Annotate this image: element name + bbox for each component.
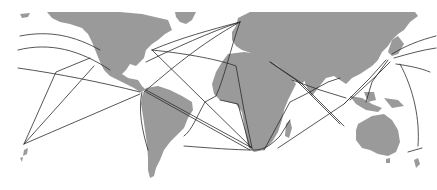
world-map bbox=[0, 0, 437, 190]
map-canvas bbox=[0, 0, 437, 190]
